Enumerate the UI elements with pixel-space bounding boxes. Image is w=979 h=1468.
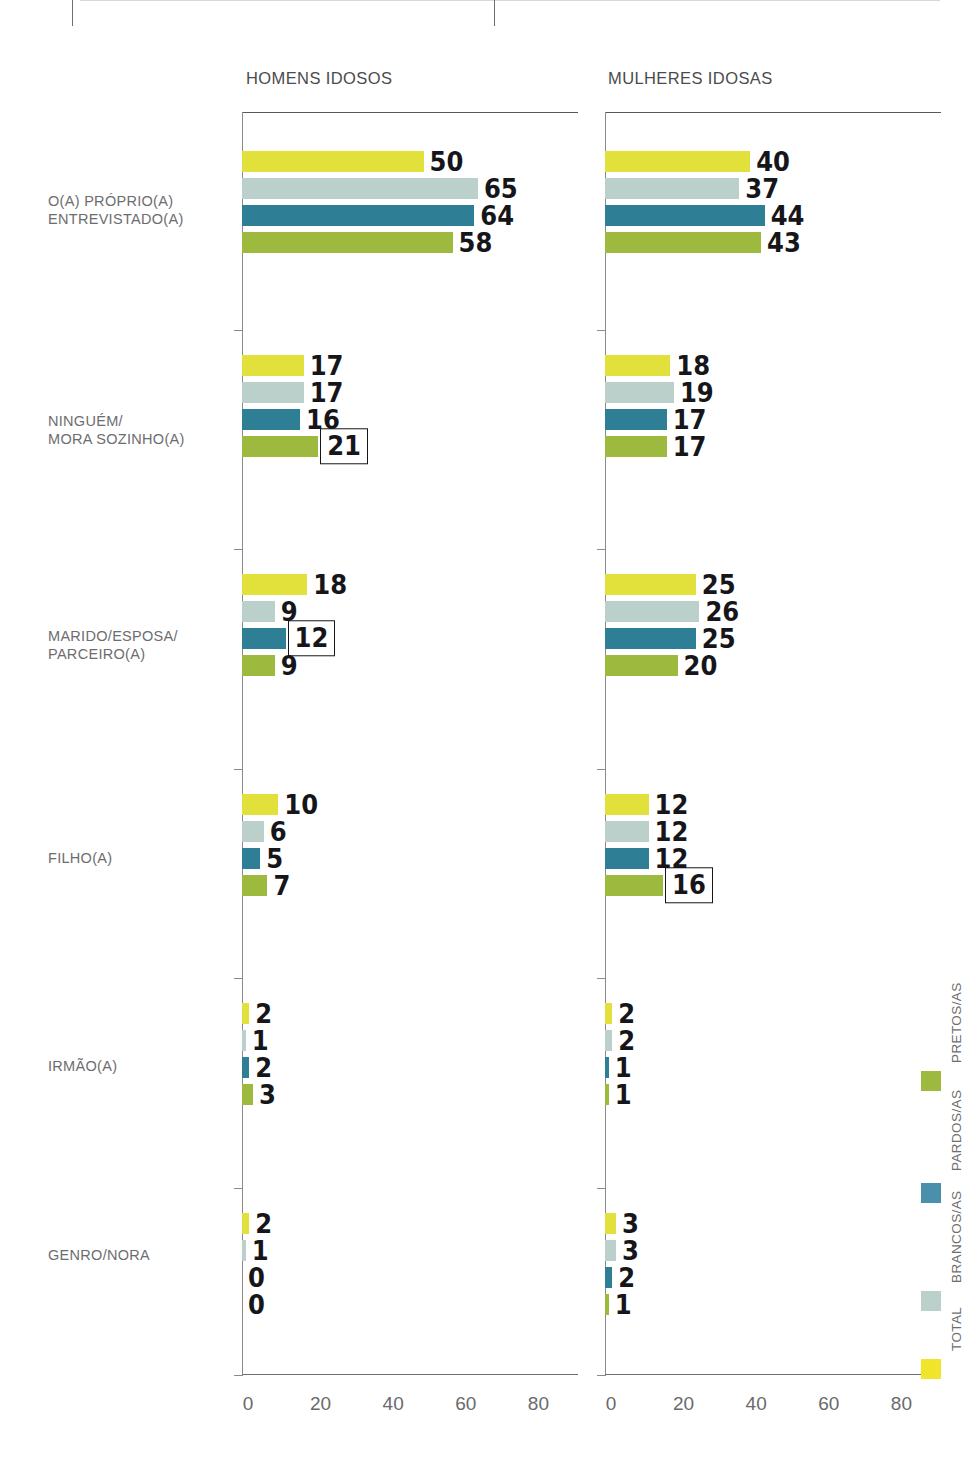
bar-brancos-as bbox=[242, 601, 275, 622]
bar-row: 50 bbox=[242, 151, 578, 172]
x-tick-label: 20 bbox=[310, 1393, 331, 1415]
bar-value-label: 44 bbox=[765, 201, 805, 228]
bar-pretos-as bbox=[605, 875, 663, 896]
bar-brancos-as bbox=[605, 1030, 612, 1051]
bar-total bbox=[242, 794, 278, 815]
bar-value-label: 3 bbox=[253, 1080, 276, 1107]
bar-row: 1 bbox=[242, 1030, 578, 1051]
bar-row: 2 bbox=[242, 1003, 578, 1024]
bar-row: 2 bbox=[242, 1213, 578, 1234]
bar-value-label: 2 bbox=[612, 999, 635, 1026]
bar-row: 5 bbox=[242, 848, 578, 869]
bar-value-label: 58 bbox=[453, 228, 493, 255]
category-label-line: O(A) PRÓPRIO(A) bbox=[48, 192, 233, 210]
x-axis-line bbox=[605, 1374, 941, 1375]
bar-row: 44 bbox=[605, 205, 941, 226]
x-tick-labels: 020406080 bbox=[242, 1393, 578, 1421]
category-label-line: IRMÃO(A) bbox=[48, 1057, 233, 1075]
bar-total bbox=[605, 151, 750, 172]
x-tick-label: 20 bbox=[673, 1393, 694, 1415]
bar-pardos-as bbox=[242, 628, 286, 649]
bar-pretos-as bbox=[242, 232, 453, 253]
bar-total bbox=[242, 151, 424, 172]
bar-value-label: 7 bbox=[267, 871, 290, 898]
bar-pardos-as bbox=[242, 1057, 249, 1078]
category-label-line: MARIDO/ESPOSA/ bbox=[48, 627, 233, 645]
bar-value-label: 19 bbox=[674, 378, 714, 405]
bar-value-label: 17 bbox=[304, 351, 344, 378]
legend-swatch-brancos-as bbox=[921, 1291, 941, 1311]
bar-pretos-as bbox=[605, 232, 761, 253]
axis-separator-tick bbox=[597, 769, 606, 770]
bar-row: 2 bbox=[605, 1267, 941, 1288]
bar-group: 25262520 bbox=[605, 574, 941, 682]
legend: PRETOS/ASPARDOS/ASBRANCOS/ASTOTAL bbox=[903, 953, 963, 1353]
x-tick-label: 80 bbox=[891, 1393, 912, 1415]
bar-value-label: 1 bbox=[609, 1080, 632, 1107]
bar-pardos-as bbox=[242, 848, 260, 869]
bar-value-label: 25 bbox=[696, 570, 736, 597]
category-label-line: MORA SOZINHO(A) bbox=[48, 430, 233, 448]
top-rule-left bbox=[72, 0, 73, 26]
bar-row: 6 bbox=[242, 821, 578, 842]
x-tick-label: 0 bbox=[606, 1393, 617, 1415]
bar-value-label: 3 bbox=[616, 1209, 639, 1236]
bar-group: 17171621 bbox=[242, 355, 578, 463]
bar-group: 189129 bbox=[242, 574, 578, 682]
bar-row: 1 bbox=[605, 1294, 941, 1315]
bar-row: 18 bbox=[605, 355, 941, 376]
bar-row: 65 bbox=[242, 178, 578, 199]
bar-row: 2 bbox=[242, 1057, 578, 1078]
bar-pardos-as bbox=[242, 205, 474, 226]
panel-title-homens: HOMENS IDOSOS bbox=[246, 69, 392, 88]
bar-value-label: 18 bbox=[307, 570, 347, 597]
bar-row: 1 bbox=[605, 1057, 941, 1078]
panel-title-mulheres: MULHERES IDOSAS bbox=[608, 69, 773, 88]
bar-pretos-as bbox=[242, 436, 318, 457]
bar-value-label: 17 bbox=[667, 432, 707, 459]
bar-brancos-as bbox=[605, 821, 649, 842]
x-tick-label: 60 bbox=[818, 1393, 839, 1415]
bar-value-label: 1 bbox=[609, 1053, 632, 1080]
bar-value-label: 18 bbox=[670, 351, 710, 378]
bar-row: 17 bbox=[242, 382, 578, 403]
bar-value-label: 0 bbox=[242, 1290, 265, 1317]
bar-value-label: 40 bbox=[750, 147, 790, 174]
bar-brancos-as bbox=[242, 178, 478, 199]
bar-value-label: 65 bbox=[478, 174, 518, 201]
bar-group: 3321 bbox=[605, 1213, 941, 1321]
axis-separator-tick bbox=[597, 1188, 606, 1189]
category-label-line: FILHO(A) bbox=[48, 849, 233, 867]
bar-group: 2211 bbox=[605, 1003, 941, 1111]
bar-value-label: 2 bbox=[249, 1209, 272, 1236]
bar-row: 12 bbox=[605, 848, 941, 869]
axis-separator-tick bbox=[597, 330, 606, 331]
bar-row: 26 bbox=[605, 601, 941, 622]
bar-value-label: 2 bbox=[249, 999, 272, 1026]
bar-row: 12 bbox=[605, 821, 941, 842]
category-label-line: PARCEIRO(A) bbox=[48, 645, 233, 663]
bar-row: 12 bbox=[605, 794, 941, 815]
bar-brancos-as bbox=[242, 821, 264, 842]
bar-row: 21 bbox=[242, 436, 578, 457]
bar-group: 50656458 bbox=[242, 151, 578, 259]
axis-separator-tick bbox=[234, 769, 243, 770]
bar-group: 2100 bbox=[242, 1213, 578, 1321]
x-tick-label: 0 bbox=[243, 1393, 254, 1415]
bar-row: 12 bbox=[242, 628, 578, 649]
axis-separator-tick bbox=[234, 1375, 243, 1376]
bar-total bbox=[605, 1003, 612, 1024]
category-label-line: GENRO/NORA bbox=[48, 1246, 233, 1264]
category-label-line: ENTREVISTADO(A) bbox=[48, 210, 233, 228]
x-axis-line bbox=[242, 1374, 578, 1375]
bar-total bbox=[605, 794, 649, 815]
panel-top-edge bbox=[242, 112, 578, 113]
axis-separator-tick bbox=[234, 978, 243, 979]
bar-pretos-as bbox=[605, 436, 667, 457]
bar-row: 18 bbox=[242, 574, 578, 595]
bar-value-label-highlighted: 21 bbox=[320, 428, 368, 464]
legend-label-pardos-as: PARDOS/AS bbox=[949, 1090, 964, 1171]
axis-separator-tick bbox=[597, 549, 606, 550]
bar-value-label-highlighted: 16 bbox=[665, 867, 713, 903]
bar-value-label: 2 bbox=[612, 1026, 635, 1053]
